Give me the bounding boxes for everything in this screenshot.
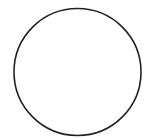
- diagram-svg: [0, 0, 156, 138]
- diagram-canvas: [0, 0, 156, 138]
- circle-shape: [14, 9, 141, 136]
